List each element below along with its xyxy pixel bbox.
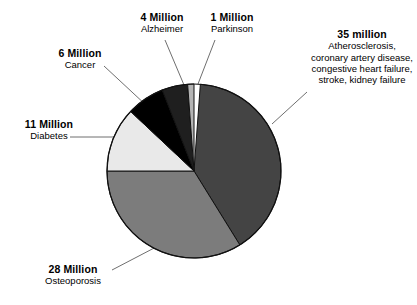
callout-label-diabetes: 11 Million Diabetes — [8, 118, 90, 142]
chart-canvas: 35 million Atherosclerosis, coronary art… — [0, 0, 417, 305]
callout-value-parkinson: 1 Million — [198, 11, 266, 23]
callout-name-diabetes: Diabetes — [8, 130, 90, 141]
leader-line-alzheimer — [165, 40, 184, 85]
callout-label-cancer: 6 Million Cancer — [42, 47, 118, 71]
leader-line-athero — [272, 92, 307, 124]
callout-label-osteoporosis: 28 Million Osteoporosis — [28, 263, 118, 287]
pie-slices — [107, 84, 281, 258]
leader-line-parkinson — [198, 40, 215, 84]
leader-line-osteoporosis — [112, 246, 158, 270]
leader-line-cancer — [104, 66, 147, 106]
callout-label-parkinson: 1 Million Parkinson — [198, 11, 266, 35]
callout-value-cancer: 6 Million — [42, 47, 118, 59]
callout-value-alzheimer: 4 Million — [126, 11, 198, 23]
callout-name-parkinson: Parkinson — [198, 23, 266, 34]
callout-name-osteoporosis: Osteoporosis — [28, 275, 118, 286]
callout-label-alzheimer: 4 Million Alzheimer — [126, 11, 198, 35]
callout-name-cancer: Cancer — [42, 59, 118, 70]
callout-label-atherosclerosis: 35 million Atherosclerosis, coronary art… — [310, 28, 414, 85]
callout-name-alzheimer: Alzheimer — [126, 23, 198, 34]
callout-value-diabetes: 11 Million — [8, 118, 90, 130]
callout-name-atherosclerosis: Atherosclerosis, coronary artery disease… — [310, 40, 414, 85]
callout-value-atherosclerosis: 35 million — [310, 28, 414, 40]
callout-value-osteoporosis: 28 Million — [28, 263, 118, 275]
